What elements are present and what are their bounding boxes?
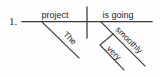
adverb-label-very: very: [105, 44, 124, 63]
sentence-diagram: 1. project is going The smoothly very: [0, 0, 160, 77]
exercise-number: 1.: [9, 15, 18, 27]
predicate-label: is going: [102, 10, 133, 20]
sentence-diagram-page: 1. project is going The smoothly very: [0, 0, 160, 77]
subject-label: project: [41, 10, 69, 20]
